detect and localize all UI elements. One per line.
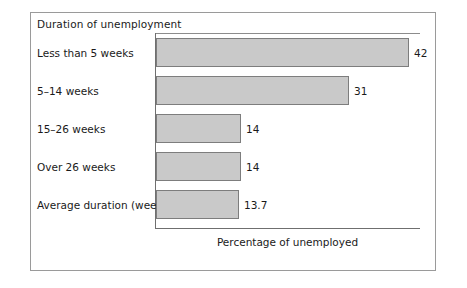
- category-label-2: 15–26 weeks: [37, 123, 105, 135]
- category-label-3: Over 26 weeks: [37, 161, 115, 173]
- bar-1: [156, 76, 349, 105]
- chart-title: Duration of unemployment: [37, 18, 181, 31]
- category-label-0: Less than 5 weeks: [37, 47, 134, 59]
- category-label-4: Average duration (weeks): [37, 199, 172, 211]
- bar-value-0: 42: [414, 47, 427, 59]
- plot-top-border: [155, 33, 420, 34]
- x-axis-line: [155, 228, 420, 229]
- bar-value-3: 14: [246, 161, 259, 173]
- bar-3: [156, 152, 241, 181]
- x-axis-title: Percentage of unemployed: [155, 236, 420, 249]
- bar-2: [156, 114, 241, 143]
- bar-0: [156, 38, 409, 67]
- bar-value-1: 31: [354, 85, 367, 97]
- bar-chart-figure: Duration of unemployment Less than 5 wee…: [0, 0, 467, 288]
- bar-value-4: 13.7: [244, 199, 267, 211]
- category-label-1: 5–14 weeks: [37, 85, 99, 97]
- bar-4: [156, 190, 239, 219]
- bar-value-2: 14: [246, 123, 259, 135]
